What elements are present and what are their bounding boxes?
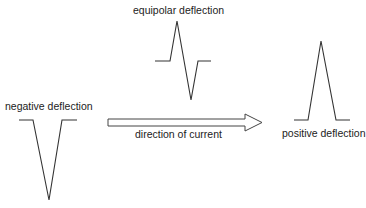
equipolar-label: equipolar deflection — [133, 4, 224, 16]
negative-waveform — [19, 120, 77, 200]
negative-label: negative deflection — [5, 100, 93, 112]
direction-label: direction of current — [135, 128, 222, 140]
positive-waveform — [294, 41, 350, 120]
equipolar-waveform — [155, 21, 211, 100]
positive-label: positive deflection — [282, 127, 365, 139]
